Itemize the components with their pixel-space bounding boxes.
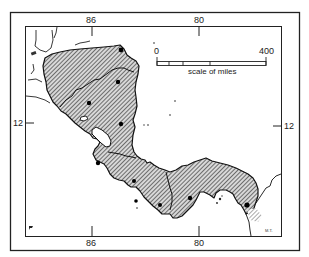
- longitude-label-top-86: 86: [86, 16, 96, 25]
- site-dot: [116, 80, 120, 84]
- site-dot: [96, 161, 100, 165]
- longitude-label-bottom-86: 86: [86, 239, 96, 248]
- map-canvas: [0, 0, 309, 257]
- site-dot: [134, 199, 138, 203]
- scale-start-label: 0: [154, 47, 159, 56]
- latitude-label-right-12: 12: [284, 122, 294, 131]
- credit-initials: M.T.: [265, 228, 273, 233]
- scale-end-label: 400: [259, 47, 274, 56]
- latitude-label-left-12: 12: [13, 119, 23, 128]
- island-belize-cays: [31, 51, 37, 56]
- longitude-label-bottom-80: 80: [194, 239, 204, 248]
- site-dot: [158, 203, 162, 207]
- site-dot: [119, 122, 123, 126]
- scale-caption: scale of miles: [188, 68, 236, 76]
- site-dot: [188, 196, 192, 200]
- site-dot: [87, 101, 91, 105]
- longitude-label-top-80: 80: [194, 16, 204, 25]
- site-dot: [244, 202, 249, 207]
- site-dot: [132, 179, 136, 183]
- site-dot: [119, 48, 124, 53]
- darien-patch: [247, 208, 262, 222]
- north-corner-mark-icon: [28, 225, 34, 231]
- colombia-border: [256, 174, 281, 203]
- scale-bar: [157, 57, 266, 66]
